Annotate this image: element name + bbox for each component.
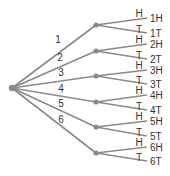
outcome-label: 2H xyxy=(150,39,163,50)
branch-label: 3 xyxy=(58,67,64,78)
coin-label: H xyxy=(135,34,142,45)
outcome-label: 6H xyxy=(150,142,163,153)
outcome-label: 4T xyxy=(150,105,162,116)
coin-label: T xyxy=(136,24,142,35)
branch-label: 2 xyxy=(57,52,63,63)
coin-label: T xyxy=(136,75,142,86)
branch-label: 5 xyxy=(58,98,64,109)
outcome-label: 5H xyxy=(150,116,163,127)
branch-label: 1 xyxy=(55,34,61,45)
branch-node-3 xyxy=(93,73,98,78)
outcome-label: 6T xyxy=(150,156,162,167)
branch-node-6 xyxy=(93,150,98,155)
branch-label: 4 xyxy=(58,83,64,94)
branch-node-1 xyxy=(93,22,98,27)
coin-label: H xyxy=(135,60,142,71)
coin-label: H xyxy=(135,137,142,148)
coin-label: T xyxy=(136,152,142,163)
tree-diagram: 1H1HT1T2H2HT2T3H3HT3T4H4HT4T5H5HT5T6H6HT… xyxy=(0,0,170,176)
coin-label: H xyxy=(135,111,142,122)
outcome-label: 1T xyxy=(150,28,162,39)
branch-node-4 xyxy=(93,99,98,104)
branch-edge-4 xyxy=(12,88,96,102)
outcome-label: 1H xyxy=(150,13,163,24)
root-node xyxy=(9,85,15,91)
coin-label: H xyxy=(135,8,142,19)
outcome-label: 2T xyxy=(150,54,162,65)
coin-label: H xyxy=(135,85,142,96)
outcome-label: 3H xyxy=(150,65,163,76)
branch-node-2 xyxy=(93,48,98,53)
outcome-label: 3T xyxy=(150,79,162,90)
edges xyxy=(12,18,147,161)
labels: 1H1HT1T2H2HT2T3H3HT3T4H4HT4T5H5HT5T6H6HT… xyxy=(55,8,163,167)
outcome-label: 5T xyxy=(150,131,162,142)
coin-label: T xyxy=(136,127,142,138)
branch-label: 6 xyxy=(58,114,64,125)
branch-node-5 xyxy=(93,124,98,129)
outcome-label: 4H xyxy=(150,90,163,101)
